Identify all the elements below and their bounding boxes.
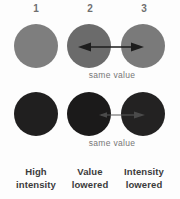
caption-column-1-line2: intensity — [7, 179, 65, 192]
caption-column-2-line1: Value — [61, 166, 119, 179]
same-value-label-top: same value — [52, 70, 172, 80]
column-number-2: 2 — [67, 3, 113, 15]
connector-arrow-bottom — [99, 108, 145, 122]
column-number-1: 1 — [13, 3, 59, 15]
caption-column-1: High intensity — [7, 166, 65, 191]
same-value-label-bottom: same value — [52, 138, 172, 148]
caption-column-3: Intensity lowered — [115, 166, 173, 191]
column-number-3: 3 — [121, 3, 167, 15]
caption-column-3-line2: lowered — [115, 179, 173, 192]
value-intensity-diagram: 1 2 3 same value same value High intensi… — [0, 0, 180, 199]
swatch-light-reference — [14, 24, 58, 68]
caption-column-1-line1: High — [7, 166, 65, 179]
connector-arrow-top — [78, 40, 144, 54]
caption-column-2-line2: lowered — [61, 179, 119, 192]
swatch-dark-reference — [14, 92, 58, 136]
caption-column-2: Value lowered — [61, 166, 119, 191]
caption-column-3-line1: Intensity — [115, 166, 173, 179]
